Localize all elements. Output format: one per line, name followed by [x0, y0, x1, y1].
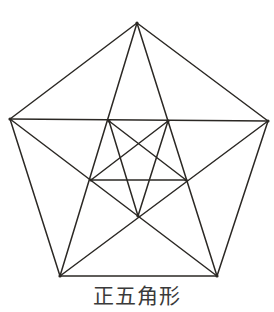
edge-P2-P5	[91, 121, 168, 180]
edge-A-D	[60, 23, 137, 276]
edge-B-D	[60, 121, 268, 276]
vertex-P5	[89, 178, 92, 181]
vertex-P2	[166, 119, 169, 122]
vertex-E	[8, 117, 11, 120]
edge-B-E	[10, 119, 268, 121]
vertex-P1	[107, 119, 110, 122]
edge-P1-P3	[109, 121, 186, 180]
edge-P1-P4	[109, 121, 138, 216]
edge-D-E	[10, 119, 60, 276]
vertex-D	[58, 274, 61, 277]
regular-pentagon-diagram	[0, 0, 274, 312]
diagram-caption: 正五角形	[0, 283, 274, 309]
vertex-C	[215, 274, 218, 277]
edge-A-C	[137, 23, 217, 276]
edge-P2-P4	[138, 121, 168, 216]
edge-B-C	[217, 121, 268, 276]
vertex-P3	[184, 178, 187, 181]
edge-C-E	[10, 119, 217, 276]
vertex-B	[266, 119, 269, 122]
vertex-P4	[136, 214, 139, 217]
edge-A-B	[137, 23, 268, 121]
pentagon-lines	[8, 21, 269, 277]
vertex-A	[135, 21, 138, 24]
edge-E-A	[10, 23, 137, 119]
